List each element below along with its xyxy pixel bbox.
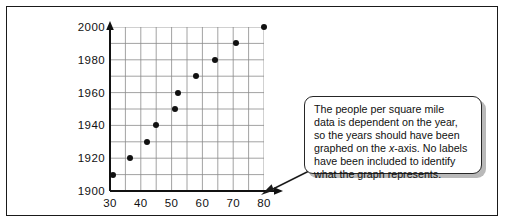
figure-frame: 190019201940196019802000 304050607080 Th…	[6, 6, 498, 216]
annotation-callout: The people per square mile data is depen…	[304, 96, 482, 174]
callout-line-6: what the graph represents.	[314, 168, 473, 181]
callout-line-3: so the years should have been	[314, 129, 473, 142]
x-axis-tick-labels: 304050607080	[110, 197, 264, 215]
x-axis-tick-label: 60	[196, 197, 210, 209]
callout-box: The people per square mile data is depen…	[304, 96, 482, 174]
callout-line-5: have been included to identify	[314, 155, 473, 168]
x-axis-tick-label: 70	[226, 197, 240, 209]
callout-line-1: The people per square mile	[314, 103, 473, 116]
callout-line-2: data is dependent on the year,	[314, 116, 473, 129]
x-axis-tick-label: 50	[165, 197, 179, 209]
x-axis-tick-label: 40	[134, 197, 148, 209]
y-axis-arrow-head	[106, 21, 114, 30]
callout-line-4-b: -axis. No labels	[394, 142, 467, 154]
callout-text: The people per square mile data is depen…	[314, 103, 473, 182]
callout-line-4-a: graphed on the	[314, 142, 389, 154]
callout-line-4: graphed on the x-axis. No labels	[314, 142, 473, 155]
x-axis-tick-label: 30	[103, 197, 117, 209]
